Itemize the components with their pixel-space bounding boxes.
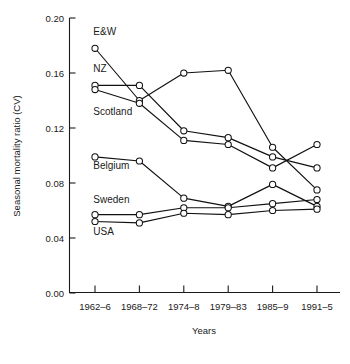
data-point-marker: [181, 137, 187, 143]
data-point-marker: [92, 218, 98, 224]
x-tick-label: 1968–72: [121, 301, 158, 312]
data-point-marker: [314, 141, 320, 147]
data-point-marker: [136, 82, 142, 88]
series-label-nz: NZ: [93, 63, 106, 74]
x-tick-label: 1974–8: [168, 301, 200, 312]
data-point-marker: [270, 181, 276, 187]
data-point-marker: [136, 212, 142, 218]
y-tick-labels: 0.000.040.080.120.160.20: [46, 13, 65, 299]
x-tick-label: 1985–9: [257, 301, 289, 312]
data-point-marker: [314, 187, 320, 193]
data-point-marker: [225, 141, 231, 147]
y-tick-marks: [70, 18, 76, 293]
data-point-marker: [314, 165, 320, 171]
data-point-marker: [181, 128, 187, 134]
data-point-marker: [270, 201, 276, 207]
data-point-marker: [225, 205, 231, 211]
y-tick-label: 0.16: [46, 68, 65, 79]
data-point-marker: [270, 144, 276, 150]
y-tick-label: 0.08: [46, 178, 65, 189]
data-point-marker: [225, 135, 231, 141]
y-axis: 0.000.040.080.120.160.20 Seasonal mortal…: [11, 13, 76, 299]
x-tick-label: 1979–83: [210, 301, 247, 312]
data-point-marker: [270, 165, 276, 171]
series-label-sweden: Sweden: [93, 194, 129, 205]
chart-figure: 0.000.040.080.120.160.20 Seasonal mortal…: [0, 0, 350, 364]
data-point-marker: [314, 196, 320, 202]
series-nz: [92, 82, 320, 171]
series-label-scotland: Scotland: [93, 106, 132, 117]
y-tick-label: 0.00: [46, 288, 65, 299]
series-scotland: [92, 86, 320, 171]
series-label-belgium: Belgium: [93, 160, 129, 171]
x-tick-label: 1991–5: [301, 301, 333, 312]
data-point-marker: [181, 195, 187, 201]
data-point-marker: [314, 206, 320, 212]
y-axis-title: Seasonal mortality ratio (CV): [11, 95, 22, 216]
x-tick-label: 1962–6: [79, 301, 111, 312]
data-point-marker: [136, 220, 142, 226]
data-point-marker: [270, 207, 276, 213]
series-usa: [92, 206, 320, 226]
line-chart: 0.000.040.080.120.160.20 Seasonal mortal…: [0, 0, 350, 364]
y-tick-label: 0.04: [46, 233, 65, 244]
series-label-layer: E&WNZScotlandBelgiumSwedenUSA: [93, 26, 132, 236]
x-tick-labels: 1962–61968–721974–81979–831985–91991–5: [79, 301, 333, 312]
data-point-marker: [181, 210, 187, 216]
x-tick-marks: [95, 286, 317, 293]
data-point-marker: [136, 158, 142, 164]
series-e-w: [92, 45, 320, 193]
x-axis-title: Years: [192, 325, 216, 336]
data-point-marker: [136, 100, 142, 106]
series-line: [95, 85, 317, 168]
y-tick-label: 0.12: [46, 123, 65, 134]
series-label-e-w: E&W: [93, 26, 116, 37]
data-point-marker: [270, 154, 276, 160]
y-tick-label: 0.20: [46, 13, 65, 24]
series-label-usa: USA: [93, 226, 114, 237]
data-point-marker: [225, 212, 231, 218]
data-point-marker: [225, 67, 231, 73]
data-point-marker: [92, 86, 98, 92]
data-point-marker: [92, 212, 98, 218]
x-axis: 1962–61968–721974–81979–831985–91991–5 Y…: [70, 286, 341, 337]
data-point-marker: [181, 70, 187, 76]
data-point-marker: [92, 45, 98, 51]
series-line: [95, 209, 317, 223]
series-line: [95, 90, 317, 168]
